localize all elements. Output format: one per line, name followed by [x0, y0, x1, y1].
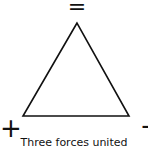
diagram-caption: Three forces united	[0, 136, 148, 149]
triangle-diagram: = + -	[0, 0, 148, 150]
equals-symbol: =	[68, 0, 86, 19]
triangle-shape	[23, 23, 129, 116]
